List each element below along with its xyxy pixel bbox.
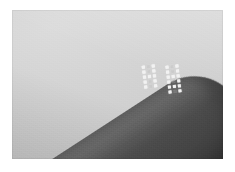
array-dot (168, 85, 171, 88)
array-dot (144, 85, 147, 88)
array-dot (173, 85, 176, 88)
array-dot (176, 74, 179, 77)
array-dot (176, 69, 179, 72)
array-dot (168, 90, 171, 93)
array-dot (173, 90, 176, 93)
array-dot (152, 64, 155, 67)
figure-root: Close-up grayscale photograph of a finge… (0, 0, 235, 172)
array-dot (148, 75, 151, 78)
array-dot (142, 66, 145, 69)
array-dot (177, 79, 180, 82)
array-dot (153, 74, 156, 77)
array-dot (143, 75, 146, 78)
dot-array-left (142, 64, 158, 88)
photo-plate (12, 10, 223, 159)
array-dot (172, 75, 175, 78)
array-dot (143, 80, 146, 83)
array-dot (166, 70, 169, 73)
array-dot (153, 79, 156, 82)
array-dot (172, 80, 175, 83)
array-dot (154, 84, 157, 87)
array-dot (178, 89, 181, 92)
array-dot (167, 80, 170, 83)
array-dot (148, 80, 151, 83)
array-dot (178, 84, 181, 87)
array-dot (142, 70, 145, 73)
array-dot (165, 66, 168, 69)
array-dot (170, 65, 173, 68)
array-dot (152, 69, 155, 72)
array-dot (147, 65, 150, 68)
image-caption: Close-up grayscale photograph of a finge… (0, 0, 1, 1)
array-dot (147, 70, 150, 73)
array-dot (167, 75, 170, 78)
array-dot (149, 85, 152, 88)
array-dot (175, 64, 178, 67)
array-dot (171, 70, 174, 73)
